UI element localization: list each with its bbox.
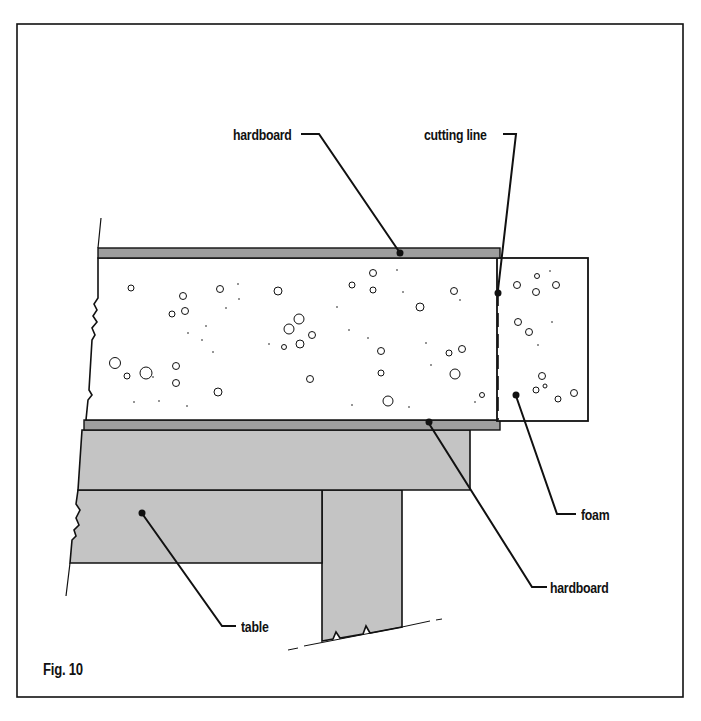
label-table: table	[241, 619, 268, 634]
foam-cutting-diagram	[0, 0, 701, 721]
figure-caption: Fig. 10	[43, 662, 83, 678]
table-rail	[70, 490, 322, 563]
table-leg	[322, 490, 402, 641]
label-top-hardboard: hardboard	[233, 127, 292, 142]
label-foam: foam	[581, 507, 609, 522]
bottom-hardboard	[84, 420, 500, 430]
table-top	[78, 430, 470, 490]
top-hardboard	[98, 248, 500, 258]
label-bottom-hardboard: hardboard	[550, 580, 609, 595]
foam-body	[86, 258, 500, 420]
label-cutting-line: cutting line	[424, 127, 487, 142]
